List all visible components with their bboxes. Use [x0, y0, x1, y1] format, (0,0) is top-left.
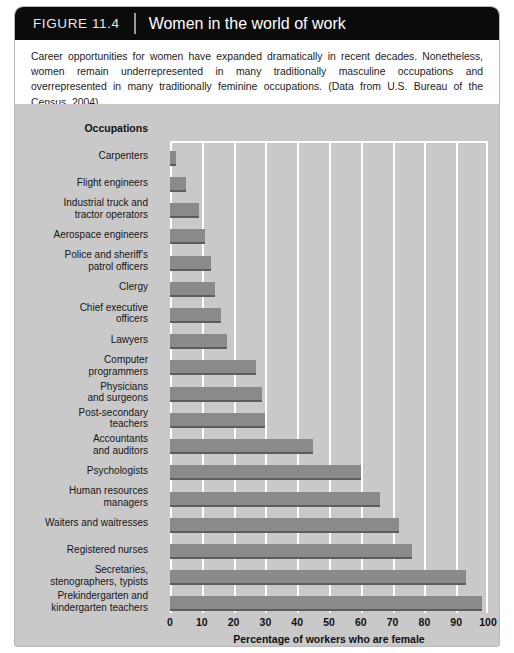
category-label-line: Registered nurses	[15, 544, 148, 556]
bar	[170, 439, 313, 454]
bar	[170, 596, 482, 611]
x-tick-label: 0	[167, 616, 173, 628]
category-label-line: Psychologists	[15, 465, 148, 477]
x-tick-label: 100	[479, 616, 497, 628]
category-label-line: Waiters and waitresses	[15, 517, 148, 529]
bar	[170, 387, 262, 402]
category-label-line: Industrial truck and	[15, 197, 148, 209]
category-label-line: kindergarten teachers	[15, 602, 148, 614]
figure-title: Women in the world of work	[149, 15, 346, 33]
x-tick-label: 80	[419, 616, 431, 628]
bar	[170, 518, 399, 533]
category-label: Aerospace engineers	[15, 229, 148, 241]
bar	[170, 308, 221, 323]
x-tick-label: 10	[196, 616, 208, 628]
category-label-line: and surgeons	[15, 392, 148, 404]
gridline-70	[393, 143, 395, 613]
gridline-80	[424, 143, 426, 613]
y-axis-header: Occupations	[84, 122, 148, 134]
x-tick-label: 30	[260, 616, 272, 628]
x-tick-label: 90	[450, 616, 462, 628]
bar	[170, 229, 205, 244]
figure-card: FIGURE 11.4 Women in the world of work C…	[14, 6, 500, 647]
bar	[170, 282, 215, 297]
category-label: Waiters and waitresses	[15, 517, 148, 529]
figure-caption: Career opportunities for women have expa…	[31, 49, 483, 110]
gridline-10	[202, 143, 204, 613]
gridline-100	[486, 143, 488, 613]
category-label: Carpenters	[15, 150, 148, 162]
category-label: Police and sheriff'spatrol officers	[15, 249, 148, 272]
bar	[170, 465, 361, 480]
figure-title-bar: FIGURE 11.4 Women in the world of work	[15, 7, 499, 40]
category-label-line: programmers	[15, 366, 148, 378]
x-tick-label: 20	[228, 616, 240, 628]
gridline-60	[361, 143, 363, 613]
category-label-line: Lawyers	[15, 334, 148, 346]
x-tick-label: 50	[323, 616, 335, 628]
x-tick-label: 70	[387, 616, 399, 628]
category-label-line: Chief executive	[15, 302, 148, 314]
category-label-line: Accountants	[15, 433, 148, 445]
gridline-90	[456, 143, 458, 613]
bar	[170, 544, 412, 559]
category-label: Registered nurses	[15, 544, 148, 556]
bar	[170, 177, 186, 192]
gridline-20	[234, 143, 236, 613]
title-divider	[134, 13, 136, 34]
bar	[170, 360, 256, 375]
category-label: Human resourcesmanagers	[15, 485, 148, 508]
category-label-line: managers	[15, 497, 148, 509]
category-label-line: patrol officers	[15, 261, 148, 273]
category-label: Industrial truck andtractor operators	[15, 197, 148, 220]
category-label-line: Prekindergarten and	[15, 590, 148, 602]
plot-area	[156, 141, 489, 613]
bar	[170, 413, 265, 428]
category-label: Prekindergarten andkindergarten teachers	[15, 590, 148, 613]
category-label-line: stenographers, typists	[15, 576, 148, 588]
category-label-line: Flight engineers	[15, 177, 148, 189]
gridline-40	[297, 143, 299, 613]
category-label-line: Computer	[15, 354, 148, 366]
category-label-line: Aerospace engineers	[15, 229, 148, 241]
category-label: Post-secondaryteachers	[15, 407, 148, 430]
bar	[170, 203, 199, 218]
category-label: Chief executiveofficers	[15, 302, 148, 325]
x-axis-title: Percentage of workers who are female	[170, 633, 488, 645]
x-tick-label: 40	[291, 616, 303, 628]
category-label-line: Post-secondary	[15, 407, 148, 419]
bar	[170, 151, 176, 166]
category-label: Computerprogrammers	[15, 354, 148, 377]
plot-inner	[170, 141, 488, 613]
gridline-30	[265, 143, 267, 613]
bar	[170, 334, 227, 349]
bar	[170, 492, 380, 507]
category-label-line: officers	[15, 313, 148, 325]
category-label-line: Police and sheriff's	[15, 249, 148, 261]
bar	[170, 256, 211, 271]
category-label: Physiciansand surgeons	[15, 381, 148, 404]
category-label-line: Human resources	[15, 485, 148, 497]
category-label: Clergy	[15, 281, 148, 293]
category-label-line: Physicians	[15, 381, 148, 393]
figure-number-label: FIGURE 11.4	[33, 16, 120, 31]
bar	[170, 570, 466, 585]
category-label-line: Clergy	[15, 281, 148, 293]
category-label: Secretaries,stenographers, typists	[15, 564, 148, 587]
category-label-line: teachers	[15, 418, 148, 430]
category-label-line: Secretaries,	[15, 564, 148, 576]
figure-caption-area: Career opportunities for women have expa…	[15, 40, 499, 104]
category-label-column: Occupations CarpentersFlight engineersIn…	[15, 104, 156, 647]
chart-panel: Occupations CarpentersFlight engineersIn…	[15, 104, 499, 647]
category-label: Lawyers	[15, 334, 148, 346]
category-label: Psychologists	[15, 465, 148, 477]
category-label-line: tractor operators	[15, 209, 148, 221]
category-label-line: and auditors	[15, 445, 148, 457]
category-label: Flight engineers	[15, 177, 148, 189]
category-label-line: Carpenters	[15, 150, 148, 162]
x-tick-label: 60	[355, 616, 367, 628]
figure-root: FIGURE 11.4 Women in the world of work C…	[0, 0, 514, 653]
category-label: Accountantsand auditors	[15, 433, 148, 456]
gridline-50	[329, 143, 331, 613]
x-axis: 0102030405060708090100 Percentage of wor…	[156, 613, 489, 647]
